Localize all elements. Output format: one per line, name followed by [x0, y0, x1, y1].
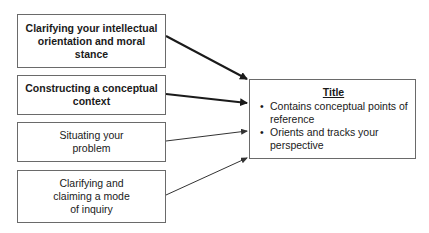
bullet-item: Orients and tracks your perspective: [270, 126, 409, 152]
input-label: Clarifying and claiming a mode of inquir…: [49, 177, 135, 216]
title-heading: Title: [258, 86, 409, 99]
input-box-mode-of-inquiry: Clarifying and claiming a mode of inquir…: [17, 170, 166, 223]
input-box-conceptual-context: Constructing a conceptual context: [17, 75, 166, 115]
bullet-item: Contains conceptual points of reference: [270, 100, 409, 126]
input-label: Clarifying your intellectual orientation…: [24, 22, 159, 61]
arrow-1: [166, 36, 247, 79]
title-box: Title Contains conceptual points of refe…: [249, 79, 416, 159]
input-box-situating-problem: Situating your problem: [17, 122, 166, 162]
input-label: Situating your problem: [52, 129, 132, 155]
title-bullet-list: Contains conceptual points of reference …: [258, 100, 409, 152]
arrow-4: [166, 158, 247, 195]
input-label: Constructing a conceptual context: [24, 82, 159, 108]
arrow-3: [166, 131, 247, 141]
arrow-2: [166, 94, 247, 103]
input-box-intellectual-orientation: Clarifying your intellectual orientation…: [17, 14, 166, 68]
